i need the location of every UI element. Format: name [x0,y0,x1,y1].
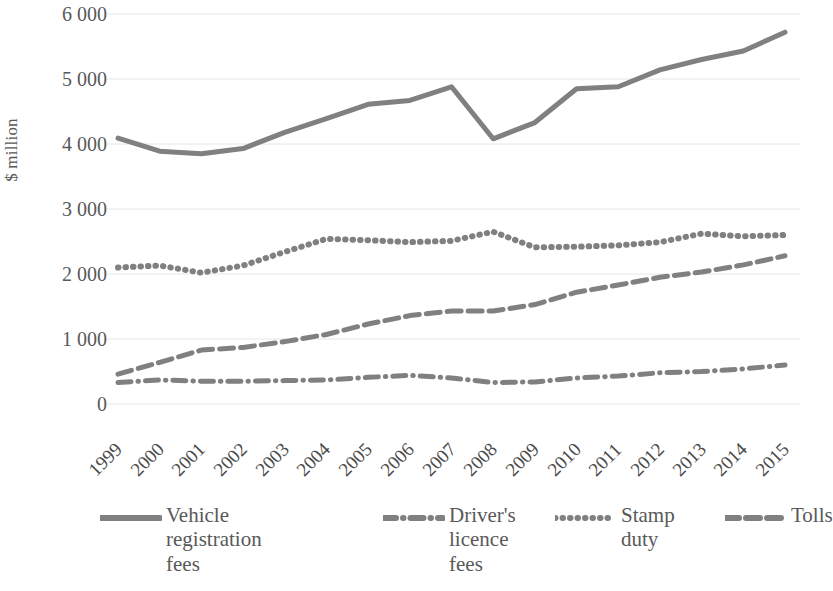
legend-item-1[interactable]: Driver's licence fees [383,503,516,576]
chart-legend: Vehicle registration feesDriver's licenc… [100,503,800,591]
x-axis-tick-label: 2011 [585,440,625,480]
x-axis-tick-label: 1999 [85,439,125,479]
legend-label-1: Driver's licence fees [449,503,516,576]
x-axis-tick-label: 2007 [419,439,459,479]
x-axis-tick-label: 2006 [377,439,417,479]
x-axis-tick-label: 2014 [710,439,750,479]
x-axis-tick-label: 2013 [669,439,709,479]
x-axis-tick-label: 2001 [168,439,208,479]
legend-key-dashdot-icon [383,507,445,529]
x-axis-tick-label: 2009 [502,439,542,479]
x-axis-tick-label: 2005 [335,439,375,479]
x-axis-tick-label: 2008 [460,439,500,479]
x-axis-tick-label: 2012 [627,439,667,479]
legend-key-dotted-icon [555,507,617,529]
x-axis-tick-label: 2002 [210,439,250,479]
x-axis-tick-label: 2010 [544,439,584,479]
x-axis-tick-label: 2003 [252,439,292,479]
legend-label-2: Stamp duty [621,503,675,552]
legend-item-3[interactable]: Tolls [725,503,833,529]
x-axis-tick-label: 2004 [293,439,333,479]
legend-key-dashed-icon [725,507,787,529]
legend-label-3: Tolls [791,503,833,527]
legend-item-0[interactable]: Vehicle registration fees [100,503,262,576]
legend-key-solid-icon [100,507,162,529]
x-axis-tick-label: 2015 [752,439,792,479]
x-axis-tick-label: 2000 [127,439,167,479]
legend-item-2[interactable]: Stamp duty [555,503,675,552]
legend-label-0: Vehicle registration fees [166,503,262,576]
